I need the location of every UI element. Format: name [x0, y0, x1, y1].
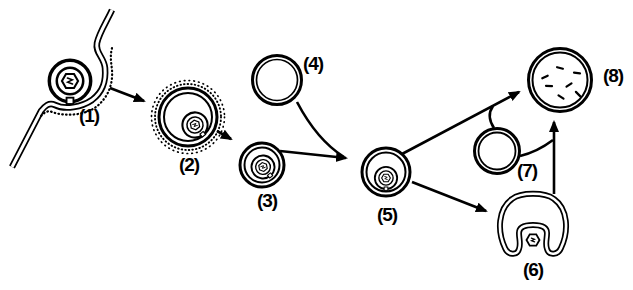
- stage-6-label: (6): [523, 259, 544, 280]
- stage-3-label: (3): [257, 190, 278, 211]
- capsid-core-squiggle: [531, 238, 534, 242]
- vesicle-outer-membrane: [475, 129, 520, 174]
- stage-6-capsid: [527, 234, 540, 245]
- stage-8-label: (8): [603, 65, 624, 86]
- stage-1-particle-in-membrane-invagination: (1): [12, 10, 112, 167]
- connector-7-to-arrow-8-lower: [520, 140, 553, 156]
- stage-5-label: (5): [377, 204, 398, 225]
- stage-5-virion: [375, 167, 397, 191]
- stage-2-coated-vesicle: (2): [152, 81, 225, 176]
- figure-canvas: (1) (2) (3) (4) (5) (7): [0, 0, 633, 290]
- stage-1-virion: [49, 60, 90, 104]
- vesicle-outer-membrane: [253, 56, 302, 105]
- connector-4-to-arrow-5: [297, 102, 344, 157]
- connector-7-to-arrow-8-upper: [490, 106, 494, 128]
- stage-8-vesicle-with-fragments: (8): [529, 49, 624, 112]
- stage-6-cup-shaped-vesicle: (6): [500, 194, 566, 280]
- vesicle-outer-membrane: [529, 49, 592, 112]
- stage-2-label: (2): [179, 154, 200, 175]
- stage-7-label: (7): [517, 160, 538, 181]
- stage-5-large-vesicle: (5): [362, 148, 410, 225]
- pathway-diagram: (1) (2) (3) (4) (5) (7): [0, 0, 633, 290]
- stage-4-empty-vesicle: (4): [253, 53, 324, 105]
- arrow-1-to-2: [110, 88, 144, 101]
- stage-3-smooth-vesicle: (3): [240, 143, 284, 211]
- stage-4-label: (4): [303, 53, 324, 74]
- stage-1-label: (1): [79, 105, 100, 126]
- arrow-5-to-6: [412, 182, 486, 211]
